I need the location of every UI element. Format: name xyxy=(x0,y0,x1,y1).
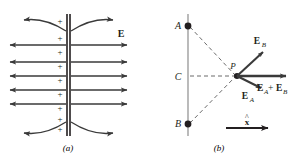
caption-a: (a) xyxy=(63,143,74,153)
label-b: B xyxy=(175,118,181,129)
label-c: C xyxy=(175,71,182,82)
vector-ea-label-main: E xyxy=(242,91,248,101)
label-p: P xyxy=(229,61,236,71)
caption-b: (b) xyxy=(214,143,225,153)
label-a: A xyxy=(174,20,182,31)
vector-eb-label-sub: B xyxy=(262,41,267,49)
plus-sign: + xyxy=(57,33,62,43)
vector-ea-label-sub: A xyxy=(249,96,255,104)
unit-vector-label: x xyxy=(245,117,250,127)
vector-sum-label-ea: E xyxy=(257,83,263,93)
figure-svg: + + + + + + + + + xyxy=(0,0,298,156)
plus-sign: + xyxy=(57,16,62,26)
plus-sign: + xyxy=(57,47,62,57)
plus-sign: + xyxy=(57,114,62,124)
field-label-E: E xyxy=(118,28,125,39)
physics-figure: + + + + + + + + + xyxy=(0,0,298,156)
vector-sum-label-plus: + xyxy=(268,83,273,93)
vector-sum-label-eb: E xyxy=(276,83,282,93)
vector-sum-label-subb: B xyxy=(283,88,288,96)
plus-signs-group: + + + + + + + + + xyxy=(57,16,62,134)
figure-background xyxy=(0,0,298,156)
charge-point-a xyxy=(185,23,192,30)
charge-point-b xyxy=(185,121,192,128)
vector-eb-label-main: E xyxy=(254,36,260,46)
